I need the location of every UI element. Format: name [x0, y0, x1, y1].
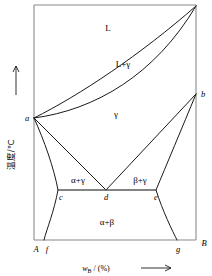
y-axis-label: 温度/℃	[6, 139, 16, 170]
x-axis-label-units: / (%)	[92, 264, 111, 273]
region-label-beta-plus-gamma: β+γ	[133, 175, 147, 185]
endpoint-label-b-component: B	[201, 238, 206, 248]
point-label-d: d	[104, 192, 109, 202]
phase-diagram-figure: L L+γ γ α+γ β+γ α+β a b c d e f g A B 温度…	[0, 0, 212, 276]
x-axis-arrow-icon	[141, 265, 171, 271]
region-label-liquid: L	[105, 23, 111, 33]
region-label-gamma: γ	[113, 109, 118, 119]
point-label-e: e	[154, 192, 158, 202]
region-label-alpha-plus-beta: α+β	[100, 217, 115, 227]
gamma-beta-boundary	[106, 94, 196, 190]
point-label-g: g	[176, 244, 180, 254]
alpha-solvus-lower	[44, 190, 58, 240]
alpha-solvus-upper	[34, 118, 58, 190]
beta-solvus-lower	[156, 190, 177, 240]
gamma-alpha-boundary	[34, 118, 106, 190]
point-label-b: b	[201, 89, 205, 99]
region-label-alpha-plus-gamma: α+γ	[71, 175, 85, 185]
region-label-liquid-plus-gamma: L+γ	[116, 59, 131, 69]
point-label-a: a	[25, 113, 29, 123]
x-axis-label: wB / (%)	[82, 264, 110, 274]
y-axis-arrow-icon	[13, 66, 19, 95]
beta-solvus-upper	[156, 94, 196, 190]
phase-diagram-svg: L L+γ γ α+γ β+γ α+β a b c d e f g A B 温度…	[0, 0, 212, 276]
point-label-c: c	[59, 192, 63, 202]
endpoint-label-a-component: A	[32, 244, 39, 254]
point-label-f: f	[46, 244, 50, 254]
